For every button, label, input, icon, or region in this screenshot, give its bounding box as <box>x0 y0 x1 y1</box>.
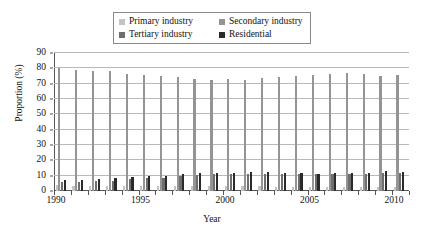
bar-2010-residential <box>402 172 404 191</box>
bar-group-2006 <box>324 53 341 191</box>
bar-group-2007 <box>341 53 358 191</box>
bar-group-1996 <box>155 53 172 191</box>
x-tick-mark-11 <box>240 191 241 195</box>
y-tick-mark-70 <box>50 83 53 84</box>
bar-1998-residential <box>199 173 201 191</box>
x-tick-mark-4 <box>122 191 123 195</box>
y-tick-label-70: 70 <box>37 79 47 89</box>
bar-group-1991 <box>71 53 88 191</box>
x-tick-mark-6 <box>155 191 156 195</box>
bar-1992-secondary-industry <box>92 71 94 191</box>
plot-area <box>54 53 409 191</box>
bar-group-2008 <box>358 53 375 191</box>
y-tick-label-30: 30 <box>37 140 47 150</box>
chart-figure: Primary industry Secondary industry Tert… <box>0 0 424 233</box>
legend-swatch-secondary-industry <box>219 19 225 25</box>
y-tick-label-0: 0 <box>41 186 46 196</box>
y-tick-label-50: 50 <box>37 110 47 120</box>
legend-item-primary-industry: Primary industry <box>119 17 219 27</box>
x-tick-mark-19 <box>375 191 376 195</box>
bar-1991-secondary-industry <box>75 70 77 191</box>
bar-1992-residential <box>98 179 100 191</box>
x-tick-mark-17 <box>341 191 342 195</box>
bar-2005-residential <box>317 174 319 191</box>
y-axis-labels: 0102030405060708090 <box>0 53 50 191</box>
legend-label-secondary-industry: Secondary industry <box>229 17 303 27</box>
bar-1996-residential <box>165 176 167 191</box>
bar-2002-residential <box>267 172 269 191</box>
bar-2003-residential <box>284 173 286 191</box>
bar-2006-residential <box>334 173 336 191</box>
y-tick-label-90: 90 <box>37 48 47 58</box>
bar-group-2001 <box>240 53 257 191</box>
bar-group-1998 <box>189 53 206 191</box>
y-tick-mark-50 <box>50 114 53 115</box>
y-tick-mark-80 <box>50 68 53 69</box>
y-tick-mark-90 <box>50 53 53 54</box>
chart-legend: Primary industry Secondary industry Tert… <box>113 12 311 44</box>
x-tick-mark-2 <box>88 191 89 195</box>
bar-2008-residential <box>368 173 370 191</box>
bar-1991-residential <box>81 180 83 192</box>
bar-1994-residential <box>131 177 133 191</box>
x-tick-mark-13 <box>274 191 275 195</box>
bar-group-2003 <box>274 53 291 191</box>
bar-2009-residential <box>385 171 387 191</box>
bar-1990-residential <box>64 180 66 191</box>
legend-label-primary-industry: Primary industry <box>129 17 193 27</box>
y-tick-label-40: 40 <box>37 125 47 135</box>
bar-1990-secondary-industry <box>58 68 60 191</box>
legend-swatch-tertiary-industry <box>119 32 125 38</box>
y-tick-mark-40 <box>50 129 53 130</box>
bar-group-1995 <box>139 53 156 191</box>
x-tick-label-2010: 2010 <box>385 196 404 206</box>
bar-1996-secondary-industry <box>160 76 162 191</box>
bar-1994-secondary-industry <box>126 74 128 191</box>
bar-group-2002 <box>257 53 274 191</box>
legend-item-tertiary-industry: Tertiary industry <box>119 30 219 40</box>
bar-group-2009 <box>375 53 392 191</box>
x-tick-label-2000: 2000 <box>216 196 235 206</box>
y-tick-mark-10 <box>50 175 53 176</box>
y-tick-label-10: 10 <box>37 171 47 181</box>
y-tick-label-20: 20 <box>37 156 47 166</box>
x-tick-mark-14 <box>291 191 292 195</box>
bar-2000-residential <box>233 173 235 191</box>
bar-group-2005 <box>308 53 325 191</box>
bar-1995-secondary-industry <box>143 75 145 191</box>
bar-group-1992 <box>88 53 105 191</box>
legend-label-residential: Residential <box>229 30 272 40</box>
x-tick-mark-3 <box>105 191 106 195</box>
bar-1993-residential <box>114 178 116 191</box>
bar-group-1997 <box>172 53 189 191</box>
bar-1997-secondary-industry <box>177 77 179 191</box>
x-axis-labels: 19901995200020052010 <box>0 196 424 210</box>
bar-group-1990 <box>54 53 71 191</box>
legend-item-residential: Residential <box>219 30 272 40</box>
x-axis-title: Year <box>0 214 424 224</box>
bar-1995-residential <box>148 176 150 191</box>
y-tick-mark-0 <box>50 191 53 192</box>
x-tick-mark-1 <box>71 191 72 195</box>
legend-label-tertiary-industry: Tertiary industry <box>129 30 192 40</box>
legend-item-secondary-industry: Secondary industry <box>219 17 303 27</box>
bar-group-1999 <box>206 53 223 191</box>
y-tick-label-80: 80 <box>37 64 47 74</box>
legend-swatch-residential <box>219 32 225 38</box>
x-tick-mark-8 <box>189 191 190 195</box>
x-tick-label-1995: 1995 <box>131 196 150 206</box>
bar-2007-residential <box>351 173 353 191</box>
y-tick-mark-30 <box>50 145 53 146</box>
legend-row: Tertiary industry Residential <box>119 28 306 41</box>
x-tick-label-2005: 2005 <box>300 196 319 206</box>
x-tick-label-1990: 1990 <box>47 196 66 206</box>
bar-2004-residential <box>300 173 302 191</box>
bar-2001-residential <box>250 172 252 191</box>
bar-group-1993 <box>105 53 122 191</box>
x-tick-mark-21 <box>409 191 410 195</box>
x-tick-mark-7 <box>172 191 173 195</box>
bar-group-2000 <box>223 53 240 191</box>
y-tick-label-60: 60 <box>37 94 47 104</box>
legend-swatch-primary-industry <box>119 19 125 25</box>
bar-group-1994 <box>122 53 139 191</box>
